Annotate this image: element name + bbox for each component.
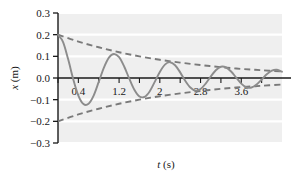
y-axis-tick-label: −0.1 [30, 94, 50, 106]
x-axis-tick-label: 1.2 [112, 85, 126, 97]
y-axis-tick-label: −0.2 [30, 115, 50, 127]
x-axis-title: t (s) [157, 158, 175, 171]
x-axis-tick-label: 2 [157, 85, 163, 97]
y-axis-tick-labels: −0.3−0.2−0.10.00.10.20.3 [30, 7, 50, 149]
chart-figure: −0.3−0.2−0.10.00.10.20.3 0.41.222.83.6 t… [0, 0, 298, 177]
damped-oscillation-chart: −0.3−0.2−0.10.00.10.20.3 0.41.222.83.6 t… [0, 0, 298, 177]
y-axis-tick-label: 0.3 [36, 7, 50, 19]
y-axis-tick-label: 0.0 [36, 72, 50, 84]
y-axis-tick-label: −0.3 [30, 137, 50, 149]
y-axis-tick-label: 0.2 [36, 29, 50, 41]
y-axis-ticks [53, 13, 58, 143]
y-axis-title: x (m) [8, 66, 21, 91]
y-axis-tick-label: 0.1 [36, 50, 50, 62]
